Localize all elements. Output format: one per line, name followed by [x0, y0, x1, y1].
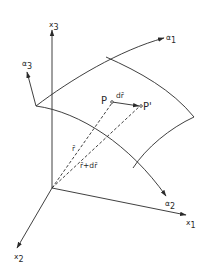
- figure-canvas: x3 x1 x2 α1 α2 α3 P P' dr̄ r̄ r̄+dr̄: [0, 0, 208, 280]
- x1-label: x1: [186, 218, 196, 230]
- r-label: r̄: [72, 144, 76, 153]
- x2-label: x2: [14, 252, 24, 264]
- x2-axis: [17, 188, 52, 248]
- r-plus-dr-vector: [52, 106, 140, 188]
- r-vector: [52, 103, 112, 188]
- alpha3-vector: [27, 72, 36, 106]
- dr-vector: [112, 102, 139, 106]
- r-plus-dr-label: r̄+dr̄: [80, 161, 98, 170]
- alpha3-label: α3: [22, 59, 32, 71]
- labels: x3 x1 x2 α1 α2 α3 P P' dr̄ r̄ r̄+dr̄: [14, 20, 196, 264]
- cartesian-axes: [17, 30, 186, 248]
- surface-bottom-edge: [133, 117, 194, 168]
- alpha1-label: α1: [166, 33, 176, 45]
- alpha2-label: α2: [165, 199, 175, 211]
- point-P-prime-marker: [140, 105, 143, 108]
- point-P-prime-label: P': [143, 101, 152, 112]
- dr-label: dr̄: [116, 91, 125, 100]
- point-P-marker: [111, 101, 114, 104]
- point-P-label: P: [101, 95, 107, 106]
- alpha1-curve: [36, 38, 164, 106]
- x3-label: x3: [49, 20, 59, 32]
